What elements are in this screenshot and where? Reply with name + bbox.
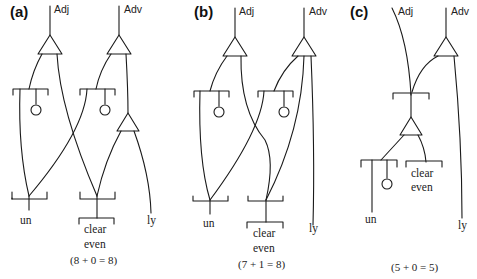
word-even: even xyxy=(84,238,106,250)
bracket xyxy=(361,160,397,167)
edge xyxy=(266,56,304,200)
morphology-tree-figure: (a) Adj Adv un cl xyxy=(0,0,477,279)
panel-a-label: (a) xyxy=(10,3,28,20)
panel-b-formula: (7 + 1 = 8) xyxy=(238,258,286,271)
panel-b: (b) Adj Adv un clear even ly (7 + 1 xyxy=(193,3,328,271)
panel-c: (c) Adj Adv clear even un ly (5 + 0 = 5) xyxy=(350,3,470,274)
panel-b-adv-label: Adv xyxy=(309,5,328,17)
edge xyxy=(210,56,227,91)
adj-edge xyxy=(392,8,411,95)
adv-triangle-icon xyxy=(107,35,131,54)
edge xyxy=(200,91,210,200)
panel-c-formula: (5 + 0 = 5) xyxy=(391,261,439,274)
edge xyxy=(418,135,426,162)
panel-c-label: (c) xyxy=(350,3,368,20)
null-morpheme-circle-icon xyxy=(214,107,224,117)
panel-a-adj-label: Adj xyxy=(54,3,69,15)
word-clear: clear xyxy=(84,223,107,235)
null-morpheme-circle-icon xyxy=(31,105,41,115)
word-even: even xyxy=(253,242,275,254)
edge xyxy=(97,131,121,196)
word-ly: ly xyxy=(309,222,318,235)
bracket xyxy=(80,89,115,95)
edge xyxy=(20,89,29,196)
word-un: un xyxy=(365,213,377,225)
panel-a-adv-label: Adv xyxy=(124,3,143,15)
word-un: un xyxy=(20,214,32,226)
edge xyxy=(412,56,438,92)
null-morpheme-circle-icon xyxy=(279,107,289,117)
inner-triangle-icon xyxy=(400,117,422,135)
panel-b-adj-label: Adj xyxy=(239,5,254,17)
adv-triangle-icon xyxy=(434,37,458,56)
edge xyxy=(29,54,42,89)
diagram-canvas: (a) Adj Adv un cl xyxy=(0,0,477,279)
word-ly: ly xyxy=(458,219,467,232)
bracket xyxy=(13,89,48,95)
panel-c-adj-label: Adj xyxy=(398,5,413,17)
panel-b-label: (b) xyxy=(194,3,213,20)
word-ly: ly xyxy=(147,214,156,227)
panel-a: (a) Adj Adv un cl xyxy=(10,3,156,267)
adj-triangle-icon xyxy=(38,35,62,54)
edge xyxy=(381,135,404,160)
null-morpheme-circle-icon xyxy=(382,179,392,189)
null-morpheme-circle-icon xyxy=(100,105,110,115)
edge xyxy=(134,131,151,213)
adj-triangle-icon xyxy=(223,37,247,56)
word-even: even xyxy=(411,181,433,193)
suffix-triangle-icon xyxy=(117,113,139,131)
edge xyxy=(96,54,111,89)
panel-c-adv-label: Adv xyxy=(451,5,470,17)
word-clear: clear xyxy=(253,227,276,239)
edge xyxy=(274,56,298,91)
panel-a-formula: (8 + 0 = 8) xyxy=(70,254,118,267)
bracket xyxy=(194,91,229,97)
edge xyxy=(454,56,462,218)
adv-triangle-icon xyxy=(292,37,316,56)
edge xyxy=(311,56,314,225)
word-clear: clear xyxy=(411,167,434,179)
edge xyxy=(126,54,128,113)
edge xyxy=(241,56,270,200)
word-un: un xyxy=(203,217,215,229)
